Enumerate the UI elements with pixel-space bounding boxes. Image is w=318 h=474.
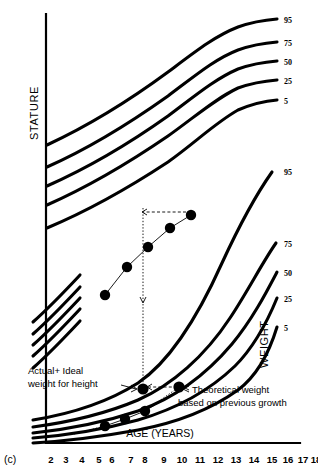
x-axis-title-age: AGE (YEARS) — [126, 427, 194, 439]
stature-data-point — [165, 223, 175, 233]
x-tick-7: 7 — [128, 454, 133, 465]
x-tick-11: 11 — [195, 454, 206, 465]
x-tick-2: 2 — [48, 454, 53, 465]
x-tick-16: 16 — [283, 454, 294, 465]
weight-percentile-labels: 95 75 50 25 5 — [284, 168, 292, 333]
weight-pct-label-5: 5 — [284, 324, 288, 333]
stature-to-weight-drop-line — [140, 208, 146, 385]
x-tick-8: 8 — [142, 454, 147, 465]
weight-pct-label-95: 95 — [284, 168, 292, 177]
x-tick-13: 13 — [231, 454, 242, 465]
stature-projection-guides — [142, 209, 186, 215]
y-axis-title-weight: WEIGHT — [258, 320, 270, 368]
annotation-theoretical-line1: Theoretical weight — [192, 384, 269, 395]
x-tick-5: 5 — [96, 454, 102, 465]
weight-pct-label-25: 25 — [284, 295, 292, 304]
x-tick-3: 3 — [63, 454, 68, 465]
stature-data-point — [186, 210, 196, 220]
annotation-actual-ideal-line1: Actual+ Ideal — [28, 365, 83, 376]
x-tick-10: 10 — [177, 454, 188, 465]
weight-data-point-actual-ideal — [137, 383, 148, 394]
x-tick-12: 12 — [213, 454, 224, 465]
y-axis-title-stature: STATURE — [28, 86, 40, 140]
stature-patient-line — [105, 215, 191, 295]
growth-chart-figure: 95 75 50 25 5 95 75 50 25 5 — [0, 0, 318, 474]
annotation-theoretical-line2: based on previous growth — [178, 397, 287, 408]
weight-pct-label-50: 50 — [284, 269, 292, 278]
x-tick-14: 14 — [249, 454, 260, 465]
x-tick-18: 18 — [311, 454, 318, 465]
x-tick-17: 17 — [298, 454, 309, 465]
stature-curve-75 — [47, 42, 277, 167]
stature-tail-50 — [33, 298, 80, 345]
stature-percentile-curves — [47, 19, 277, 228]
x-tick-6: 6 — [109, 454, 114, 465]
stature-curve-95 — [47, 19, 277, 145]
annotation-actual-ideal: Actual+ Ideal weight for height — [27, 365, 137, 392]
stature-pct-label-75: 75 — [284, 39, 292, 48]
stature-data-point — [143, 242, 153, 252]
stature-pct-label-5: 5 — [284, 97, 288, 106]
stature-curve-lower-tails — [33, 275, 80, 368]
stature-pct-label-95: 95 — [284, 16, 292, 25]
stature-pct-label-25: 25 — [284, 77, 292, 86]
x-tick-15: 15 — [267, 454, 278, 465]
x-tick-4: 4 — [79, 454, 85, 465]
weight-data-point — [120, 414, 130, 424]
stature-data-point — [100, 290, 110, 300]
stature-patient-series — [100, 210, 196, 300]
x-axis-tick-labels: 2 3 4 5 6 7 8 9 10 11 12 13 14 15 16 17 … — [48, 454, 318, 465]
chart-svg: 95 75 50 25 5 95 75 50 25 5 — [0, 0, 318, 474]
stature-percentile-labels: 95 75 50 25 5 — [284, 16, 292, 106]
annotation-actual-ideal-line2: weight for height — [27, 378, 98, 389]
x-tick-9: 9 — [161, 454, 166, 465]
weight-pct-label-75: 75 — [284, 240, 292, 249]
panel-label: (c) — [4, 453, 16, 465]
stature-pct-label-50: 50 — [284, 58, 292, 67]
stature-data-point — [122, 262, 132, 272]
